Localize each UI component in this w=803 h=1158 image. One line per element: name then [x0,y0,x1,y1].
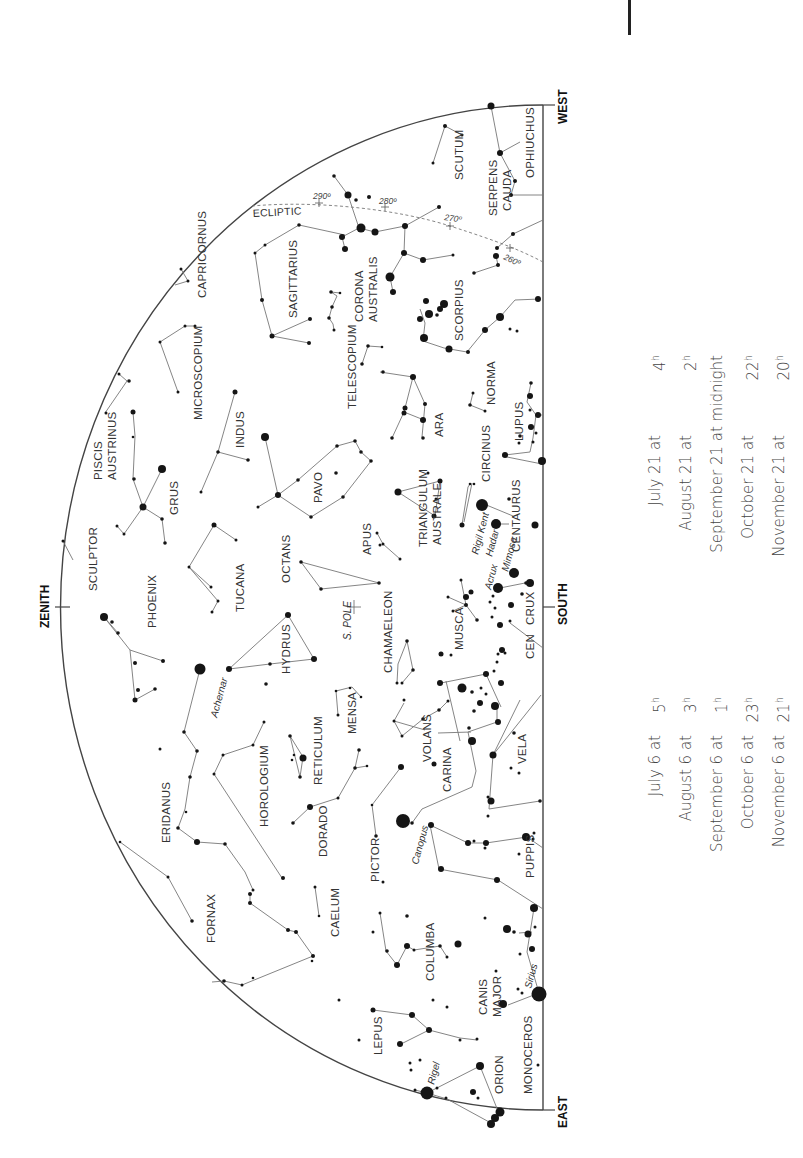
label-serpens: SERPENS [487,160,499,216]
label-major: MAJOR [491,976,503,1017]
label-circinus: CIRCINUS [480,425,492,482]
viewing-times-day21: July 21 at4h August 21 at2h September 21… [640,355,795,610]
label-chamaeleon: CHAMAELEON [382,590,394,673]
label-puppis: PUPPIS [524,834,536,878]
label-lupus: LUPUS [513,402,525,441]
label-dorado: DORADO [317,805,329,857]
label-sculptor: SCULPTOR [87,527,99,591]
label-telescopium: TELESCOPIUM [346,324,358,409]
label-microscopium: MICROSCOPIUM [192,326,204,420]
label-lepus: LEPUS [372,1016,384,1055]
viewing-times-day6: July 6 at5h August 6 at3h September 6 at… [640,697,795,910]
label-grus: GRUS [168,481,180,515]
label-australis: AUSTRALIS [367,256,379,322]
direction-east: EAST [556,1095,570,1128]
label-indus: INDUS [234,411,246,448]
label-monoceros: MONOCEROS [522,1015,534,1094]
label-hydrus: HYDRUS [280,624,292,674]
sky-dome-arc [61,105,543,1110]
ecliptic-degree-260: 260º [501,251,523,268]
label-achernar: Achernar [208,676,230,720]
label-scutum: SCUTUM [453,130,465,180]
label-columba: COLUMBA [424,923,436,981]
label-triangulum: TRIANGULUM [417,469,429,547]
label-capricornus: CAPRICORNUS [196,211,208,298]
label-reticulum: RETICULUM [312,716,324,785]
label-piscis: PISCIS [92,441,104,480]
label-horologium: HOROLOGIUM [258,745,270,827]
ecliptic-degree-290: 290º [312,191,331,201]
time-row: November 21 at20h [764,355,795,610]
ecliptic-degree-270: 270º [443,212,463,225]
time-row: September 21 at midnight [702,355,733,610]
label-cen: CEN [524,634,536,659]
constellation-labels: OPHIUCHUS SCUTUM SERPENS CAUDA CAPRICORN… [87,107,536,1094]
label-norma: NORMA [485,361,497,405]
time-row: August 21 at2h [671,355,702,610]
south-pole-label: S. POLE [342,601,353,640]
time-row: July 6 at5h [640,697,671,910]
label-tucana: TUCANA [234,563,246,612]
label-orion: ORION [493,1055,505,1094]
time-row: September 6 at1h [702,697,733,910]
label-scorpius: SCORPIUS [453,279,465,341]
time-row: October 21 at22h [733,355,764,610]
ecliptic-label: ECLIPTIC [252,204,302,219]
label-phoenix: PHOENIX [146,575,158,628]
label-corona: CORONA [353,270,365,322]
label-canopus: Canopus [409,824,430,866]
direction-west: WEST [556,89,570,124]
ecliptic-ticks [315,199,514,252]
direction-zenith: ZENITH [38,585,52,628]
time-row: November 6 at21h [764,697,795,910]
ecliptic-degree-280: 280º [378,196,397,206]
label-austrinus: AUSTRINUS [106,412,118,480]
label-octans: OCTANS [280,535,292,583]
time-row: August 6 at3h [671,697,702,910]
label-canis: CANIS [477,979,489,1015]
label-fornax: FORNAX [205,894,217,943]
label-apus: APUS [361,523,373,555]
label-australe: AUSTRALE [431,483,443,545]
label-sagittarius: SAGITTARIUS [287,240,299,318]
label-ara: ARA [433,413,445,437]
label-eridanus: ERIDANUS [160,782,172,843]
label-vela: VELA [516,734,528,764]
label-mimosa: Mimosa [499,535,519,572]
label-crux: CRUX [524,591,536,625]
time-row: July 21 at4h [640,355,671,610]
label-ophiuchus: OPHIUCHUS [524,107,536,178]
constellation-lines [63,106,543,1123]
label-pictor: PICTOR [369,838,381,882]
direction-south: SOUTH [556,583,570,625]
label-mensa: MENSA [346,692,358,734]
label-carina: CARINA [441,747,453,792]
label-cauda: CAUDA [501,170,513,211]
time-row: October 6 at23h [733,697,764,910]
label-rigel: Rigel [425,1060,442,1086]
label-caelum: CAELUM [329,888,341,937]
label-volans: VOLANS [421,714,433,762]
label-pavo: PAVO [312,472,324,503]
label-musca: MUSCA [453,607,465,650]
